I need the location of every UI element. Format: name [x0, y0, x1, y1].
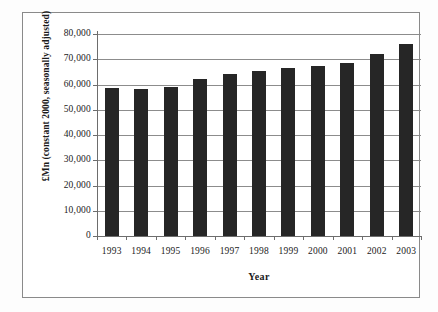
x-axis-tick	[126, 236, 127, 240]
bar-2002	[370, 54, 384, 236]
bar-1993	[105, 88, 119, 236]
bar-slot	[244, 34, 273, 236]
bar-slot	[274, 34, 303, 236]
y-axis-tick-label: 10,000	[64, 206, 91, 216]
bar-series	[97, 34, 421, 236]
x-axis-tick	[156, 236, 157, 240]
x-axis-tick	[421, 236, 422, 240]
bar-slot	[392, 34, 421, 236]
x-axis-tick-label: 2002	[367, 247, 387, 257]
gridline	[97, 236, 421, 237]
bar-1999	[281, 68, 295, 236]
bar-2001	[340, 63, 354, 236]
x-axis-tick	[392, 236, 393, 240]
x-axis-title: Year	[97, 271, 421, 282]
y-axis-tick-label: 80,000	[64, 29, 91, 39]
x-axis-tick	[362, 236, 363, 240]
y-axis-tick-label: 20,000	[64, 181, 91, 191]
x-axis-tick	[185, 236, 186, 240]
x-axis-tick	[215, 236, 216, 240]
y-axis-tick-label: 0	[86, 231, 91, 241]
plot-area: 010,00020,00030,00040,00050,00060,00070,…	[97, 34, 421, 236]
x-axis-tick-label: 1998	[249, 247, 269, 257]
bar-1997	[223, 74, 237, 236]
y-axis-title: £Mn (constant 2000, seasonally adjusted)	[41, 0, 51, 199]
x-axis-tick-label: 1996	[190, 247, 210, 257]
x-axis-tick-label: 1995	[161, 247, 181, 257]
bar-slot	[156, 34, 185, 236]
bar-slot	[303, 34, 332, 236]
chart-figure: 010,00020,00030,00040,00050,00060,00070,…	[0, 0, 438, 312]
x-axis-tick-label: 2000	[308, 247, 328, 257]
x-axis-tick-label: 1997	[220, 247, 240, 257]
x-axis-tick	[244, 236, 245, 240]
x-axis-tick	[97, 236, 98, 240]
bar-slot	[215, 34, 244, 236]
y-axis-tick-label: 40,000	[64, 130, 91, 140]
bar-slot	[362, 34, 391, 236]
bar-1994	[134, 89, 148, 236]
x-axis-tick	[303, 236, 304, 240]
x-axis-tick	[333, 236, 334, 240]
bar-1998	[252, 71, 266, 236]
bar-slot	[185, 34, 214, 236]
bar-slot	[97, 34, 126, 236]
y-axis-tick-label: 30,000	[64, 156, 91, 166]
x-axis-tick-label: 2003	[396, 247, 416, 257]
bar-slot	[333, 34, 362, 236]
x-axis-tick-label: 1993	[102, 247, 122, 257]
chart-frame: 010,00020,00030,00040,00050,00060,00070,…	[22, 12, 420, 298]
bar-1995	[164, 87, 178, 236]
bar-slot	[126, 34, 155, 236]
bar-2000	[311, 66, 325, 236]
y-axis-tick-label: 70,000	[64, 55, 91, 65]
bar-2003	[399, 44, 413, 236]
x-axis-tick-label: 1999	[279, 247, 299, 257]
y-axis-tick-label: 50,000	[64, 105, 91, 115]
bar-1996	[193, 79, 207, 236]
x-axis-tick	[274, 236, 275, 240]
x-axis-tick-label: 2001	[337, 247, 357, 257]
x-axis-tick-label: 1994	[131, 247, 151, 257]
y-axis-tick-label: 60,000	[64, 80, 91, 90]
